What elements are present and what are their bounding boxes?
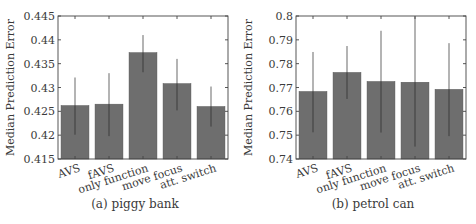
x-tick-label: AVS — [55, 161, 82, 181]
chart-petrol-can: 0.740.750.760.770.780.790.8AVSfAVSonly f… — [238, 0, 476, 224]
y-tick-label: 0.76 — [269, 105, 294, 118]
y-tick-label: 0.445 — [24, 10, 56, 23]
y-tick-label: 0.42 — [31, 129, 56, 142]
y-tick-label: 0.8 — [276, 10, 294, 23]
y-tick-label: 0.79 — [269, 34, 294, 47]
y-tick-label: 0.74 — [269, 153, 294, 166]
y-axis-label: Median Prediction Error — [242, 18, 255, 156]
y-tick-label: 0.77 — [269, 82, 294, 95]
y-tick-label: 0.415 — [24, 153, 56, 166]
y-tick-label: 0.44 — [31, 34, 56, 47]
y-tick-label: 0.75 — [269, 129, 294, 142]
chart-piggy-bank: 0.4150.420.4250.430.4350.440.445AVSfAVSo… — [0, 0, 238, 224]
y-axis-label: Median Prediction Error — [4, 18, 17, 156]
chart-caption: (a) piggy bank — [91, 197, 179, 211]
y-tick-label: 0.425 — [24, 105, 56, 118]
y-tick-label: 0.78 — [269, 58, 294, 71]
y-tick-label: 0.435 — [24, 58, 56, 71]
chart-caption: (b) petrol can — [332, 197, 415, 211]
x-tick-label: AVS — [293, 161, 320, 181]
y-tick-label: 0.43 — [31, 82, 56, 95]
